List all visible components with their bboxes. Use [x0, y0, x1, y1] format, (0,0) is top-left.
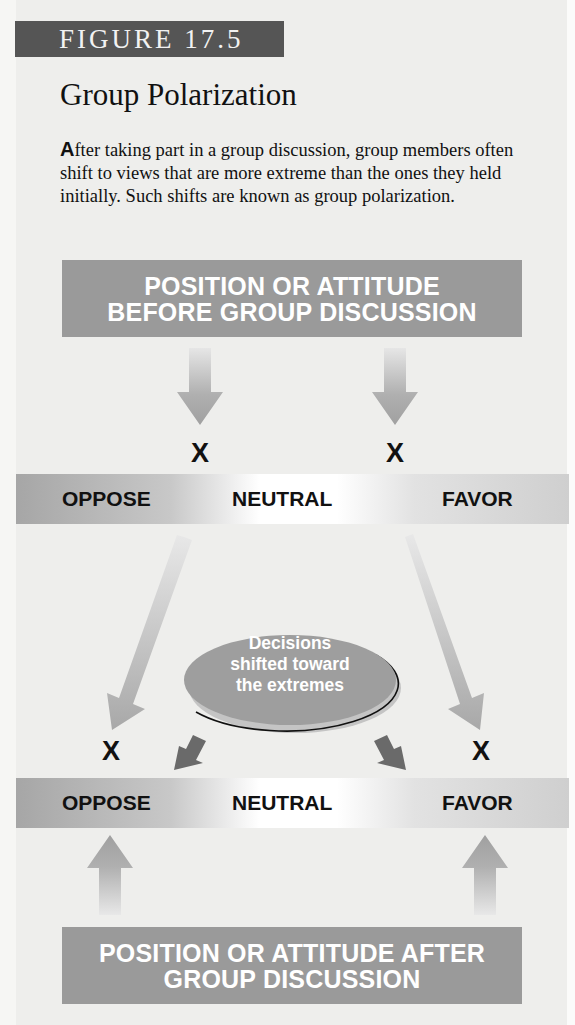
- arrow-down-right-icon: [372, 348, 418, 425]
- scale-label-favor: FAVOR: [442, 474, 513, 524]
- ellipse-caption: Decisions shifted toward the extremes: [190, 633, 390, 696]
- arrow-down-left-icon: [177, 348, 223, 425]
- arrow-up-left-icon: [87, 835, 133, 915]
- scale-label-neutral: NEUTRAL: [232, 778, 332, 828]
- arrow-diagonal-left-icon: [107, 535, 192, 730]
- marker-after-left: X: [102, 736, 120, 767]
- arrow-diagonal-right-icon: [405, 534, 484, 730]
- after-box-line1: POSITION OR ATTITUDE AFTER: [99, 940, 485, 966]
- ellipse-line3: the extremes: [190, 675, 390, 696]
- ellipse-line2: shifted toward: [190, 654, 390, 675]
- attitude-scale-after: OPPOSE NEUTRAL FAVOR: [16, 778, 569, 828]
- scale-label-neutral: NEUTRAL: [232, 474, 332, 524]
- marker-before-left: X: [191, 438, 209, 469]
- marker-before-right: X: [386, 438, 404, 469]
- after-discussion-box: POSITION OR ATTITUDE AFTER GROUP DISCUSS…: [62, 927, 522, 1004]
- arrow-up-right-icon: [462, 835, 508, 915]
- marker-after-right: X: [472, 736, 490, 767]
- ellipse-line1: Decisions: [190, 633, 390, 654]
- after-box-line2: GROUP DISCUSSION: [99, 966, 485, 992]
- scale-label-favor: FAVOR: [442, 778, 513, 828]
- arrow-shift-right-icon: [374, 735, 406, 770]
- scale-label-oppose: OPPOSE: [62, 778, 151, 828]
- scale-label-oppose: OPPOSE: [62, 474, 151, 524]
- attitude-scale-before: OPPOSE NEUTRAL FAVOR: [16, 474, 569, 524]
- arrow-shift-left-icon: [174, 735, 206, 770]
